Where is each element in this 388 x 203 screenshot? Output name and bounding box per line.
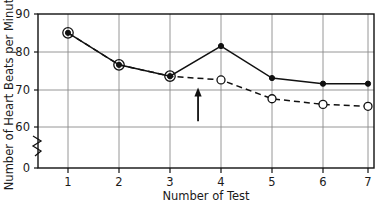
x-axis-tick-labels: 1 2 3 4 5 6 7 bbox=[64, 175, 371, 189]
data-point-dashed bbox=[268, 95, 276, 103]
data-point-shared bbox=[116, 62, 121, 67]
xtick-label-3: 3 bbox=[166, 175, 173, 189]
data-point-shared bbox=[167, 74, 172, 79]
data-point-solid bbox=[365, 81, 370, 86]
xtick-label-6: 6 bbox=[319, 175, 326, 189]
xtick-label-1: 1 bbox=[64, 175, 71, 189]
data-point-solid bbox=[269, 75, 274, 80]
data-point-solid bbox=[218, 43, 223, 48]
chart-figure: 90 80 70 60 0 1 2 3 4 5 6 7 Number of Te… bbox=[0, 0, 388, 203]
xtick-label-4: 4 bbox=[217, 175, 224, 189]
y-axis-tick-labels: 90 80 70 60 0 bbox=[15, 7, 30, 175]
ytick-label-80: 80 bbox=[15, 45, 30, 59]
data-point-shared bbox=[65, 30, 70, 35]
x-axis-title: Number of Test bbox=[162, 189, 250, 203]
data-point-dashed bbox=[364, 102, 372, 110]
plot-background bbox=[38, 14, 374, 168]
ytick-label-70: 70 bbox=[15, 83, 30, 97]
ytick-label-0: 0 bbox=[23, 161, 30, 175]
ytick-label-60: 60 bbox=[15, 120, 30, 134]
ytick-label-90: 90 bbox=[15, 7, 30, 21]
y-axis-title: Number of Heart Beats per Minute bbox=[2, 0, 16, 190]
data-point-solid bbox=[320, 81, 325, 86]
xtick-label-2: 2 bbox=[115, 175, 122, 189]
xtick-label-7: 7 bbox=[364, 175, 371, 189]
data-point-dashed bbox=[319, 100, 327, 108]
xtick-label-5: 5 bbox=[268, 175, 275, 189]
line-chart: 90 80 70 60 0 1 2 3 4 5 6 7 Number of Te… bbox=[0, 0, 388, 203]
x-axis-ticks bbox=[68, 168, 368, 173]
data-point-dashed bbox=[217, 76, 225, 84]
